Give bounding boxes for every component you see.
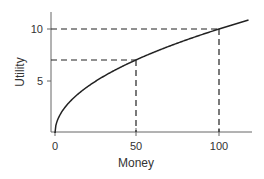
x-axis-title: Money	[118, 156, 154, 170]
y-tick-label-5: 5	[37, 75, 43, 87]
utility-chart: 10 5 0 50 100 Money Utility	[0, 0, 264, 179]
y-axis-title: Utility	[13, 57, 27, 86]
utility-curve	[55, 20, 249, 133]
guide-lines	[51, 29, 219, 132]
x-tick-label-0: 0	[52, 140, 58, 152]
x-tick-label-50: 50	[130, 140, 142, 152]
x-tick-label-100: 100	[210, 140, 228, 152]
y-tick-label-10: 10	[31, 23, 43, 35]
